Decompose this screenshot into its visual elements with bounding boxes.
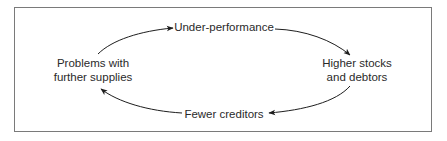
node-label: Fewer creditors — [184, 107, 263, 121]
node-label-line-1: Higher stocks — [322, 56, 392, 70]
node-fewer-creditors: Fewer creditors — [184, 107, 263, 121]
arrow-underperformance-to-higherstocks — [275, 29, 350, 55]
arrow-fewercreditors-to-problems — [101, 89, 182, 113]
node-under-performance: Under-performance — [174, 20, 274, 34]
node-label-line-2: further supplies — [54, 70, 133, 84]
node-label-line-2: and debtors — [322, 70, 392, 84]
node-label-line-1: Problems with — [54, 56, 133, 70]
node-label: Under-performance — [174, 20, 274, 34]
node-problems-supplies: Problems with further supplies — [54, 56, 133, 84]
node-higher-stocks: Higher stocks and debtors — [322, 56, 392, 84]
arrow-problems-to-underperformance — [98, 28, 173, 54]
arrow-higherstocks-to-fewercreditors — [269, 86, 350, 113]
